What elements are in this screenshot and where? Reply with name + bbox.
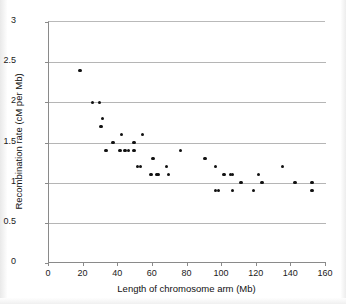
x-axis-tick-label: 100	[206, 269, 236, 278]
data-point	[101, 117, 104, 120]
data-point	[127, 149, 130, 152]
x-axis-tick	[256, 262, 257, 266]
y-axis-tick	[45, 183, 49, 184]
data-point	[310, 189, 313, 192]
data-point	[99, 125, 102, 128]
data-point	[217, 189, 220, 192]
x-axis-tick	[48, 262, 49, 266]
data-point	[252, 189, 255, 192]
data-point	[165, 165, 168, 168]
data-point	[141, 133, 144, 136]
x-axis-tick	[325, 262, 326, 266]
data-point	[156, 173, 159, 176]
data-point	[281, 165, 284, 168]
x-axis-tick-label: 140	[275, 269, 305, 278]
page-edge-shadow-right	[341, 0, 346, 304]
y-axis-tick	[45, 223, 49, 224]
y-axis-title: Recombination rate (cM per Mb)	[13, 42, 24, 242]
x-axis-tick-label: 120	[241, 269, 271, 278]
data-point	[111, 141, 114, 144]
x-axis-tick	[290, 262, 291, 266]
data-point	[132, 149, 135, 152]
data-point	[214, 165, 217, 168]
data-point	[132, 141, 135, 144]
data-point	[91, 101, 94, 104]
x-axis-tick	[83, 262, 84, 266]
data-point	[203, 157, 206, 160]
x-axis-tick	[117, 262, 118, 266]
gridline	[49, 62, 326, 63]
y-axis-tick-label: 0	[0, 257, 16, 266]
data-point	[98, 101, 101, 104]
data-point	[260, 181, 263, 184]
gridline	[49, 183, 326, 184]
data-point	[151, 157, 154, 160]
data-point	[149, 173, 152, 176]
x-axis-tick	[152, 262, 153, 266]
data-point	[310, 181, 313, 184]
y-axis-tick	[45, 102, 49, 103]
scatter-plot-figure: 00.511.522.53 020406080100120140160 Leng…	[0, 0, 346, 304]
gridline	[49, 143, 326, 144]
data-point	[239, 181, 242, 184]
data-point	[104, 149, 107, 152]
data-point	[120, 133, 123, 136]
x-axis-tick-label: 20	[68, 269, 98, 278]
data-point	[179, 149, 182, 152]
plot-area	[48, 21, 325, 262]
data-point	[257, 173, 260, 176]
data-point	[222, 173, 225, 176]
data-point	[293, 181, 296, 184]
y-axis-tick	[45, 62, 49, 63]
data-point	[231, 173, 234, 176]
data-point	[167, 173, 170, 176]
gridline	[49, 223, 326, 224]
x-axis-title: Length of chromosome arm (Mb)	[48, 283, 325, 294]
data-point	[78, 69, 81, 72]
y-axis-tick	[45, 143, 49, 144]
x-axis-tick	[221, 262, 222, 266]
page-edge-shadow-bottom	[0, 298, 346, 304]
data-point	[118, 149, 121, 152]
data-point	[231, 189, 234, 192]
y-axis-tick-label: 3	[0, 16, 16, 25]
data-point	[139, 165, 142, 168]
x-axis-tick-label: 80	[172, 269, 202, 278]
x-axis-tick-label: 60	[137, 269, 167, 278]
x-axis-tick	[187, 262, 188, 266]
y-axis-tick	[45, 22, 49, 23]
x-axis-tick-label: 40	[102, 269, 132, 278]
x-axis-tick-label: 0	[33, 269, 63, 278]
x-axis-tick-label: 160	[310, 269, 340, 278]
